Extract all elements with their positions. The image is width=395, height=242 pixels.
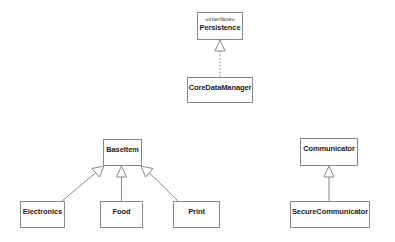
class-name: Print (188, 207, 205, 217)
class-box-communicator[interactable]: Communicator (300, 138, 358, 166)
class-name: SecureCommunicator (292, 207, 368, 217)
realization-coredatamanager-persistence (215, 40, 225, 77)
generalization-securecommunicator-communicator (324, 166, 334, 201)
stereotype-label: «interface» (205, 16, 235, 23)
class-name: CoreDataManager (189, 83, 252, 93)
generalization-print-baseitem (141, 166, 178, 201)
class-box-coredatamanager[interactable]: CoreDataManager (187, 77, 253, 103)
class-name: Electronics (23, 207, 62, 217)
uml-class-diagram: «interface» Persistence CoreDataManager … (0, 0, 395, 242)
class-box-food[interactable]: Food (100, 201, 143, 228)
class-name: Food (113, 207, 131, 217)
class-name: BaseItem (106, 145, 139, 155)
generalization-electronics-baseitem (62, 166, 104, 201)
class-box-electronics[interactable]: Electronics (20, 201, 65, 228)
class-name: Persistence (199, 23, 240, 33)
class-box-persistence[interactable]: «interface» Persistence (197, 12, 243, 40)
class-name: Communicator (303, 144, 355, 154)
class-box-baseitem[interactable]: BaseItem (103, 139, 142, 166)
class-box-print[interactable]: Print (173, 201, 220, 228)
generalization-food-baseitem (117, 166, 127, 201)
class-box-securecommunicator[interactable]: SecureCommunicator (290, 201, 370, 228)
